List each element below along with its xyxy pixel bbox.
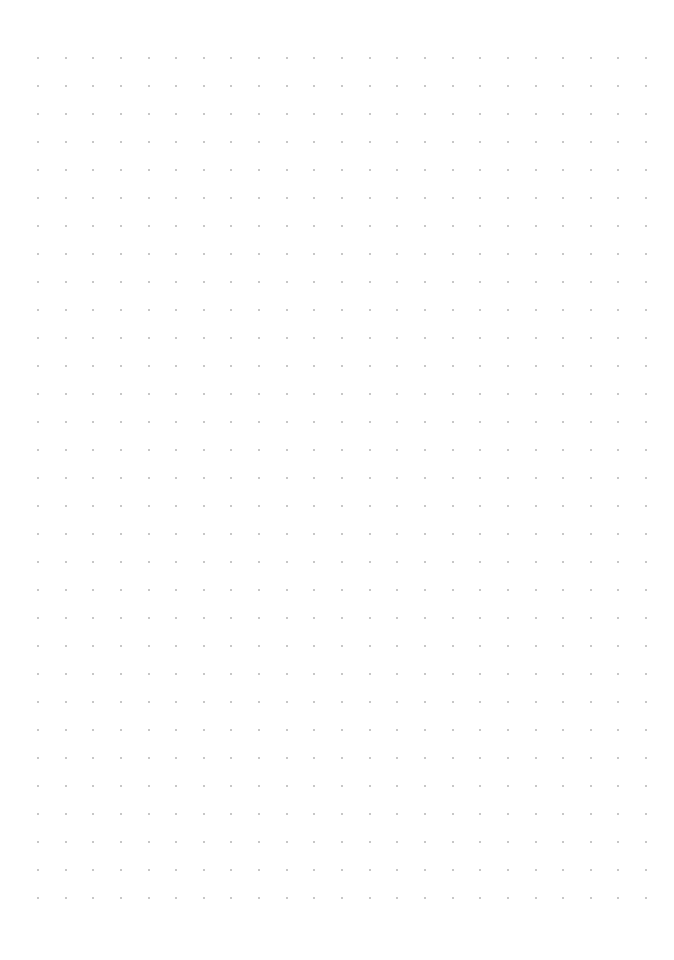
grid-dot [479,337,481,339]
grid-dot [341,225,343,227]
grid-dot [617,169,619,171]
grid-dot [120,225,122,227]
grid-dot [286,757,288,759]
grid-dot [203,785,205,787]
grid-dot [369,197,371,199]
grid-dot [617,701,619,703]
grid-dot [203,113,205,115]
grid-dot [341,141,343,143]
grid-dot [341,57,343,59]
grid-dot [65,169,67,171]
grid-dot [590,645,592,647]
dot-grid-page [0,0,674,960]
grid-dot [424,281,426,283]
grid-dot [258,785,260,787]
grid-dot [424,225,426,227]
grid-dot [313,337,315,339]
grid-dot [424,197,426,199]
grid-dot [175,645,177,647]
grid-dot [562,701,564,703]
grid-dot [479,141,481,143]
grid-dot [535,169,537,171]
grid-dot [424,757,426,759]
grid-dot [37,449,39,451]
grid-dot [645,645,647,647]
grid-dot [396,533,398,535]
grid-dot [396,365,398,367]
grid-dot [645,225,647,227]
grid-dot [120,533,122,535]
grid-dot [645,393,647,395]
grid-dot [92,617,94,619]
grid-dot [258,169,260,171]
grid-dot [37,589,39,591]
grid-dot [562,85,564,87]
grid-dot [37,253,39,255]
grid-dot [230,449,232,451]
grid-dot [203,841,205,843]
grid-dot [590,113,592,115]
grid-dot [341,197,343,199]
grid-dot [175,309,177,311]
grid-dot [313,365,315,367]
grid-dot [562,645,564,647]
grid-dot [230,617,232,619]
grid-dot [452,85,454,87]
grid-dot [37,897,39,899]
grid-dot [424,477,426,479]
grid-dot [396,309,398,311]
grid-dot [452,449,454,451]
grid-dot [562,281,564,283]
grid-dot [120,617,122,619]
grid-dot [645,561,647,563]
grid-dot [479,757,481,759]
grid-dot [175,561,177,563]
grid-dot [37,785,39,787]
grid-dot [369,701,371,703]
grid-dot [369,57,371,59]
grid-dot [37,365,39,367]
grid-dot [37,393,39,395]
grid-dot [203,365,205,367]
grid-dot [369,141,371,143]
grid-dot [230,785,232,787]
grid-dot [369,813,371,815]
grid-dot [507,281,509,283]
grid-dot [562,169,564,171]
grid-dot [617,85,619,87]
grid-dot [479,477,481,479]
grid-dot [479,589,481,591]
grid-dot [645,673,647,675]
grid-dot [230,897,232,899]
grid-dot [424,589,426,591]
grid-dot [452,729,454,731]
grid-dot [313,589,315,591]
grid-dot [286,421,288,423]
grid-dot [396,897,398,899]
grid-dot [396,393,398,395]
grid-dot [590,505,592,507]
grid-dot [396,589,398,591]
grid-dot [479,365,481,367]
grid-dot [507,617,509,619]
grid-dot [175,113,177,115]
grid-dot [562,561,564,563]
grid-dot [535,897,537,899]
grid-dot [313,701,315,703]
grid-dot [590,589,592,591]
grid-dot [424,673,426,675]
grid-dot [37,645,39,647]
grid-dot [452,813,454,815]
grid-dot [535,813,537,815]
grid-dot [258,505,260,507]
grid-dot [175,589,177,591]
grid-dot [65,505,67,507]
grid-dot [645,533,647,535]
grid-dot [535,785,537,787]
grid-dot [148,505,150,507]
grid-dot [562,729,564,731]
grid-dot [203,393,205,395]
grid-dot [507,113,509,115]
grid-dot [148,225,150,227]
grid-dot [590,365,592,367]
